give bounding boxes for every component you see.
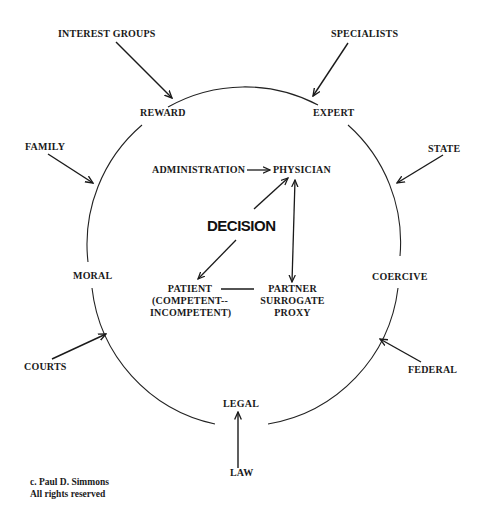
influence-label-federal: FEDERAL [408,364,457,375]
interest-groups-arrow [116,42,172,98]
ring-label-coercive: COERCIVE [372,271,428,282]
state-arrow [397,155,443,183]
patient-incompetent-label: INCOMPETENT) [150,307,230,319]
influence-label-interest-groups: INTEREST GROUPS [58,28,156,39]
node-administration: ADMINISTRATION [152,164,245,175]
influence-label-family: FAMILY [25,141,65,152]
ring-label-legal: LEGAL [223,398,259,409]
ring-label-moral: MORAL [73,270,112,281]
outer-ring [87,87,401,424]
decision-title: DECISION [207,217,276,234]
influence-label-specialists: SPECIALISTS [331,28,398,39]
family-arrow [48,154,93,183]
copyright-author: c. Paul D. Simmons [30,476,109,488]
influence-label-state: STATE [428,143,460,154]
surrogate-label: SURROGATE [255,295,330,307]
proxy-label: PROXY [255,307,330,319]
copyright-rights: All rights reserved [30,488,109,500]
decision-diagram-canvas [0,0,488,520]
node-partner: PARTNER SURROGATE PROXY [255,283,330,319]
partner-label: PARTNER [255,283,330,295]
decision-to-patient-arrow [198,240,236,279]
patient-label: PATIENT [150,283,230,295]
patient-competent-label: (COMPETENT-- [150,295,230,307]
decision-to-physician-arrow [254,178,288,209]
federal-arrow [380,339,421,362]
ring-label-expert: EXPERT [313,107,354,118]
courts-arrow [52,334,106,359]
influence-label-law: LAW [230,467,253,478]
influence-label-courts: COURTS [24,361,67,372]
physician-partner-double-arrow [292,180,295,282]
node-physician: PHYSICIAN [273,164,331,175]
copyright-notice: c. Paul D. Simmons All rights reserved [30,476,109,500]
node-patient: PATIENT (COMPETENT-- INCOMPETENT) [150,283,230,319]
ring-label-reward: REWARD [140,107,186,118]
specialists-arrow [313,43,348,96]
